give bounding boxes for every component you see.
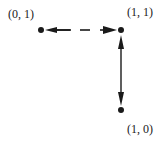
node-label-1-1: (1, 1) <box>127 6 153 18</box>
arrowhead-down-icon <box>118 92 124 106</box>
edge-solid-vertical <box>118 35 124 106</box>
edge-dashed-horizontal <box>45 26 117 34</box>
arrowhead-left-icon <box>45 27 57 33</box>
node-label-1-0: (1, 0) <box>127 123 153 135</box>
node-dot-1-0 <box>118 107 124 113</box>
arrowhead-up-icon <box>118 35 124 49</box>
node-label-0-1: (0, 1) <box>8 8 34 20</box>
node-dot-0-1 <box>38 27 44 33</box>
node-dot-1-1 <box>118 27 124 33</box>
arrowhead-right-icon <box>103 26 117 34</box>
